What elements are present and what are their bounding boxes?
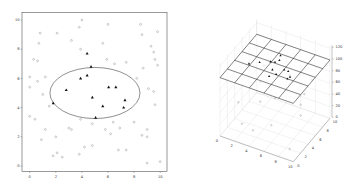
x-tick-label: 0 (29, 175, 32, 179)
y-tick-label: 0 (17, 164, 20, 168)
circle-marker (271, 124, 273, 126)
wall-grid-line (220, 93, 257, 136)
y3d-tick-label: 8 (327, 129, 330, 133)
floor-grid-line (279, 113, 316, 156)
y3d-tick-label: 0 (297, 164, 300, 168)
floor-grid-line (242, 110, 315, 136)
scatter-plot-2d: 0246810 0246810 (15, 13, 167, 180)
x3d-tick-label: 4 (245, 149, 248, 153)
y-tick-label: 8 (17, 47, 20, 51)
x-axis-line (220, 136, 293, 162)
floor-grid-line (235, 119, 308, 145)
x-tick-label: 10 (158, 175, 163, 179)
z-tick-label: 20 (336, 104, 341, 108)
floor-grid-line (227, 127, 300, 153)
floor-grid-line (249, 101, 322, 127)
z-axis: 020406080100120 (332, 45, 343, 119)
y3d-tick-label: 6 (319, 138, 322, 142)
circle-marker (241, 123, 243, 125)
y-tick-label: 6 (17, 77, 20, 81)
y3d-tick-label: 2 (304, 155, 306, 159)
y3d-tick-label: 10 (333, 120, 338, 124)
circle-marker (260, 101, 262, 103)
x3d-tick-label: 10 (288, 165, 293, 169)
3d-xy-axis-ticks: 02468100246810 (216, 120, 338, 168)
x-axis-ticks: 0246810 (29, 172, 164, 180)
y-tick-label: 10 (15, 18, 20, 22)
floor-grid-line (249, 103, 286, 146)
floor-grid-line (264, 108, 301, 151)
x3d-tick-label: 0 (216, 139, 219, 143)
y3d-tick-label: 4 (312, 146, 315, 150)
x3d-tick-label: 8 (274, 160, 277, 164)
x-tick-label: 6 (107, 175, 110, 179)
circle-marker (300, 115, 302, 117)
y-axis-ticks: 0246810 (15, 18, 22, 168)
x3d-tick-label: 2 (231, 144, 233, 148)
z-tick-label: 60 (336, 80, 341, 84)
plot-axes-frame (22, 13, 167, 172)
floor-grid-line (235, 98, 272, 141)
x-tick-label: 2 (55, 175, 57, 179)
z-tick-label: 100 (336, 57, 344, 61)
y-axis-line (293, 118, 330, 161)
z-tick-label: 120 (336, 45, 344, 49)
circle-marker (252, 129, 254, 131)
x3d-tick-label: 6 (260, 154, 263, 158)
z-tick-label: 0 (336, 115, 339, 119)
y-tick-label: 2 (17, 135, 19, 139)
x-tick-label: 8 (133, 175, 136, 179)
circle-marker (304, 93, 306, 95)
y-tick-label: 4 (17, 106, 20, 110)
x-tick-label: 4 (81, 175, 84, 179)
figure: 0246810 0246810 020406080100120 02468100… (0, 0, 355, 192)
z-tick-label: 40 (336, 92, 341, 96)
z-tick-label: 80 (336, 69, 341, 73)
scatter-plot-3d: 020406080100120 02468100246810 (216, 20, 343, 169)
